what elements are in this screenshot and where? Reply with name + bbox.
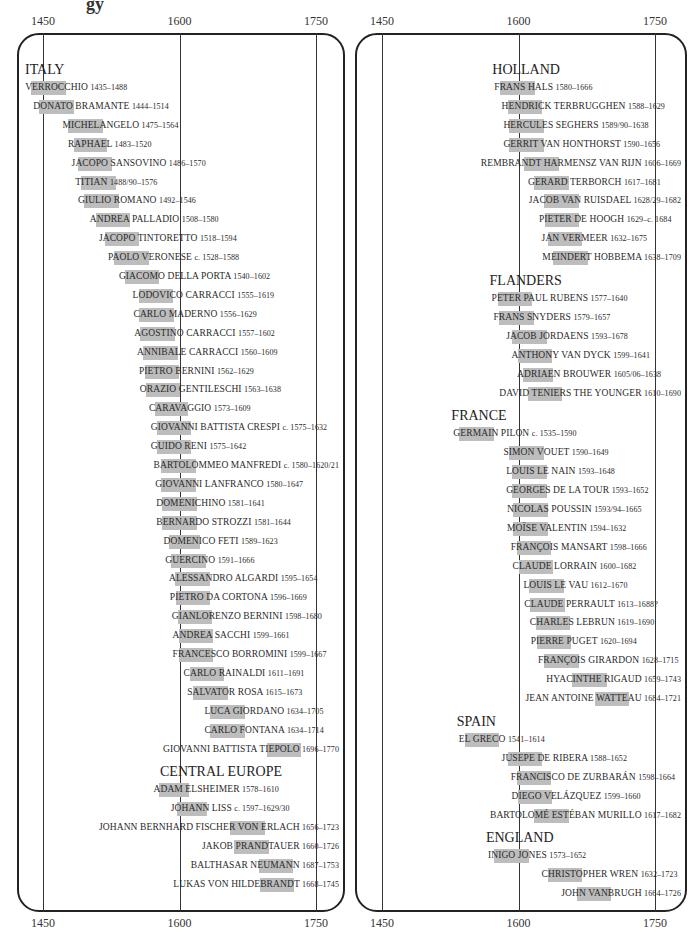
artist-name: CARLO RAINALDI xyxy=(184,668,268,678)
artist-name: FRANÇOIS MANSART xyxy=(511,542,610,552)
artist-dates: 1590–1656 xyxy=(623,140,660,149)
artist-name: JOHANN BERNHARD FISCHER VON ERLACH xyxy=(99,822,302,832)
artist-dates: 1475–1564 xyxy=(142,121,179,130)
artist-name: AGOSTINO CARRACCI xyxy=(134,328,238,338)
artist-name: GIULIO ROMANO xyxy=(78,195,159,205)
artist-dates: 1619–1690 xyxy=(617,618,654,627)
artist-dates: 1598–1666 xyxy=(610,543,647,552)
artist-name: LODOVICO CARRACCI xyxy=(133,290,238,300)
gridline-1450 xyxy=(43,33,44,912)
artist-dates: c. 1528–1588 xyxy=(194,253,239,262)
artist-dates: 1668–1745 xyxy=(302,880,339,889)
artist-name: JOHN VANBRUGH xyxy=(561,888,644,898)
artist-name: DAVID TENIERS THE YOUNGER xyxy=(499,388,644,398)
artist-label: GEORGES DE LA TOUR 1593–1652 xyxy=(506,485,648,495)
artist-label: BARTOLOMMEO MANFREDI c. 1580–1620/21 xyxy=(154,460,339,470)
artist-dates: 1577–1640 xyxy=(591,294,628,303)
artist-label: REMBRANDT HARMENSZ VAN RIJN 1606–1669 xyxy=(481,158,681,168)
artist-dates: 1541–1614 xyxy=(508,735,545,744)
artist-label: SIMON VOUET 1590–1649 xyxy=(503,447,608,457)
artist-label: DIEGO VELÁZQUEZ 1599–1660 xyxy=(512,791,641,801)
artist-label: HYACINTHE RIGAUD 1659–1743 xyxy=(546,674,681,684)
artist-dates: 1610–1690 xyxy=(644,389,681,398)
artist-label: FRANCESCO BORROMINI 1599–1667 xyxy=(173,649,327,659)
artist-name: CARLO FONTANA xyxy=(204,725,286,735)
axis-tick-label-top: 1600 xyxy=(168,14,192,29)
region-heading: SPAIN xyxy=(457,714,496,730)
artist-label: JACOPO TINTORETTO 1518–1594 xyxy=(99,233,237,243)
artist-name: GIOVANNI LANFRANCO xyxy=(155,479,266,489)
artist-label: PIERRE PUGET 1620–1694 xyxy=(531,636,637,646)
artist-dates: 1684–1721 xyxy=(644,694,681,703)
artist-dates: 1634–1714 xyxy=(287,726,324,735)
artist-dates: 1573–1652 xyxy=(549,851,586,860)
artist-dates: 1696–1770 xyxy=(302,745,339,754)
artist-dates: 1444–1514 xyxy=(132,102,169,111)
artist-name: LUCA GIORDANO xyxy=(204,706,286,716)
artist-name: GUERCINO xyxy=(165,555,217,565)
artist-dates: 1612–1670 xyxy=(591,581,628,590)
artist-name: GERRIT VAN HONTHORST xyxy=(503,139,623,149)
region-heading: ENGLAND xyxy=(486,830,554,846)
artist-label: LOUIS LE VAU 1612–1670 xyxy=(523,580,627,590)
artist-dates: 1488/90–1576 xyxy=(110,178,157,187)
artist-dates: 1620–1694 xyxy=(600,637,637,646)
artist-label: JAKOB PRANDTAUER 1660–1726 xyxy=(202,841,339,851)
artist-dates: 1617–1682 xyxy=(644,811,681,820)
artist-label: GIOVANNI BATTISTA TIEPOLO 1696–1770 xyxy=(163,744,339,754)
artist-label: GUERCINO 1591–1666 xyxy=(165,555,254,565)
artist-label: DOMENICO FETI 1589–1623 xyxy=(163,536,277,546)
artist-label: PIETRO BERNINI 1562–1629 xyxy=(139,366,254,376)
artist-label: MOÏSE VALENTIN 1594–1632 xyxy=(507,523,626,533)
artist-label: ORAZIO GENTILESCHI 1563–1638 xyxy=(140,384,281,394)
artist-dates: 1659–1743 xyxy=(644,675,681,684)
axis-tick-label-top: 1750 xyxy=(643,14,667,29)
artist-label: CLAUDE LORRAIN 1600–1682 xyxy=(513,561,637,571)
artist-name: MEINDERT HOBBEMA xyxy=(542,252,644,262)
artist-name: PIETRO BERNINI xyxy=(139,366,217,376)
region-heading: CENTRAL EUROPE xyxy=(160,764,282,780)
artist-dates: 1593/94–1665 xyxy=(594,505,641,514)
artist-name: JACOPO TINTORETTO xyxy=(99,233,200,243)
artist-dates: 1593–1678 xyxy=(591,332,628,341)
artist-label: FRANS SNYDERS 1579–1657 xyxy=(493,312,610,322)
axis-tick-label-top: 1750 xyxy=(304,14,328,29)
artist-label: NICOLAS POUSSIN 1593/94–1665 xyxy=(507,504,642,514)
axis-tick-label-top: 1600 xyxy=(507,14,531,29)
artist-dates: 1628–1715 xyxy=(642,656,679,665)
artist-name: DOMENICHINO xyxy=(156,498,228,508)
artist-dates: 1540–1602 xyxy=(233,272,270,281)
artist-dates: 1599–1641 xyxy=(613,351,650,360)
artist-label: CHARLES LEBRUN 1619–1690 xyxy=(530,617,654,627)
artist-dates: 1634–1705 xyxy=(287,707,324,716)
artist-name: ANDREA SACCHI xyxy=(173,630,253,640)
artist-name: ALESSANDRO ALGARDI xyxy=(169,573,281,583)
artist-name: JACOB JORDAENS xyxy=(506,331,591,341)
artist-dates: 1588–1629 xyxy=(628,102,665,111)
artist-name: HENDRICK TERBRUGGHEN xyxy=(502,101,628,111)
artist-name: FRANÇOIS GIRARDON xyxy=(538,655,642,665)
axis-tick-label-bottom: 1450 xyxy=(31,916,55,931)
artist-name: LOUIS LE VAU xyxy=(523,580,590,590)
artist-label: FRANCISCO DE ZURBARÁN 1598–1664 xyxy=(511,772,675,782)
artist-name: NICOLAS POUSSIN xyxy=(507,504,594,514)
artist-dates: 1563–1638 xyxy=(244,385,281,394)
artist-name: ANDREA PALLADIO xyxy=(90,214,182,224)
artist-label: JACOPO SANSOVINO 1486–1570 xyxy=(72,158,206,168)
artist-label: TITIAN 1488/90–1576 xyxy=(75,177,157,187)
artist-label: DOMENICHINO 1581–1641 xyxy=(156,498,265,508)
artist-label: CARLO FONTANA 1634–1714 xyxy=(204,725,323,735)
artist-dates: 1578–1610 xyxy=(242,785,279,794)
artist-label: VERROCCHIO 1435–1488 xyxy=(25,82,127,92)
artist-name: RAPHAEL xyxy=(68,139,115,149)
artist-name: DONATO BRAMANTE xyxy=(33,101,132,111)
artist-label: LUCA GIORDANO 1634–1705 xyxy=(204,706,323,716)
artist-name: JAN VERMEER xyxy=(542,233,611,243)
artist-label: GIANLORENZO BERNINI 1598–1680 xyxy=(172,611,322,621)
artist-name: ANTHONY VAN DYCK xyxy=(512,350,614,360)
axis-tick-label-top: 1450 xyxy=(31,14,55,29)
artist-dates: 1598–1680 xyxy=(285,612,322,621)
artist-dates: 1605/06–1638 xyxy=(614,370,661,379)
artist-dates: 1606–1669 xyxy=(644,159,681,168)
artist-dates: 1599–1661 xyxy=(253,631,290,640)
